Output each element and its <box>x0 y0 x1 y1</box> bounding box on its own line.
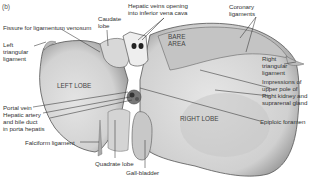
label-right-lobe: RIGHT LOBE <box>180 115 219 122</box>
liver-diagram: (b) Fissure for ligamentum venosum Cauda… <box>0 0 313 186</box>
right-triangular-ligament-shape <box>286 56 304 66</box>
label-falciform-ligament: Falciform ligament <box>25 139 75 146</box>
label-fissure-ligamentum-venosum: Fissure for ligamentum venosum <box>3 24 91 31</box>
label-coronary-ligaments: Coronary ligaments <box>229 3 255 17</box>
label-right-triangular-ligament: Right triangular ligament <box>262 55 287 76</box>
gallbladder-shape <box>132 112 152 160</box>
quadrate-lobe-shape <box>108 109 130 151</box>
label-left-triangular-ligament: Left triangular ligament <box>3 41 28 62</box>
label-hepatic-veins: Hepatic veins opening into inferior vena… <box>128 2 188 16</box>
panel-label: (b) <box>2 3 10 10</box>
label-caudate-lobe: Caudate lobe <box>98 15 121 29</box>
label-quadrate-lobe: Quadrate lobe <box>95 160 134 167</box>
label-epiploic-foramen: Epiploic foramen <box>260 118 305 125</box>
label-gallbladder: Gall-bladder <box>126 169 159 176</box>
label-hepatic-artery-bile-duct: Hepatic artery and bile duct in porta he… <box>3 111 45 132</box>
label-left-lobe: LEFT LOBE <box>57 82 91 89</box>
label-portal-vein: Portal vein <box>3 104 32 111</box>
label-bare-area: BARE AREA <box>168 33 185 47</box>
label-kidney-impressions: Impressions of upper pole of Right kidne… <box>262 78 307 106</box>
